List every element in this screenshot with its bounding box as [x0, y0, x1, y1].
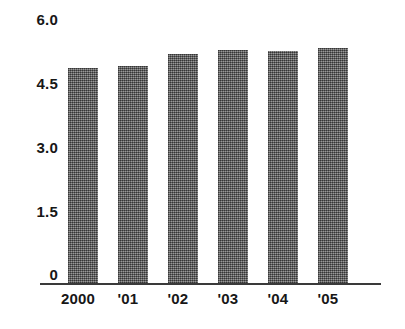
bar-03	[218, 50, 248, 283]
bar-02	[168, 54, 198, 283]
bar-05	[318, 48, 348, 283]
plot-area	[62, 14, 380, 283]
y-axis-tick-label: 3.0	[10, 140, 58, 155]
bar-04	[268, 51, 298, 283]
y-axis-tick-label: 6.0	[10, 12, 58, 27]
y-axis-tick-label: 1.5	[10, 204, 58, 219]
bar-2000	[68, 68, 98, 283]
y-axis-tick-label: 4.5	[10, 76, 58, 91]
y-axis-tick-label: 0	[10, 267, 58, 282]
bar-01	[118, 66, 148, 283]
bar-chart: 6.0 4.5 3.0 1.5 0 2000 '01 '02 '03 '04 '…	[0, 0, 405, 329]
x-axis-line	[40, 283, 381, 285]
x-axis-tick-label: '05	[298, 291, 358, 306]
